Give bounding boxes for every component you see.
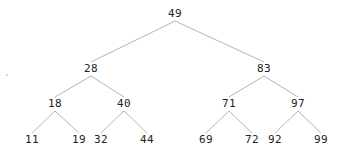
tree-edge: [229, 76, 264, 97]
tree-edge: [275, 111, 298, 133]
tree-leaf: 92: [268, 134, 282, 146]
tree-edge: [175, 21, 264, 62]
tree-edge: [264, 76, 298, 97]
tree-leaf: 99: [314, 134, 328, 146]
tree-leaf: 44: [140, 134, 154, 146]
tree-edge: [91, 21, 175, 62]
tree-edge: [91, 76, 124, 97]
tree-edge: [206, 111, 229, 133]
tree-edges: [0, 0, 344, 162]
tree-node: 71: [222, 98, 236, 110]
tree-edge: [32, 111, 55, 133]
tree-leaf: 72: [245, 134, 259, 146]
tree-node: 83: [257, 63, 271, 75]
tree-leaf: 32: [94, 134, 108, 146]
tree-leaf: 11: [25, 134, 39, 146]
tree-edge: [55, 76, 91, 97]
tree-leaf: 69: [199, 134, 213, 146]
tree-edge: [298, 111, 321, 133]
tree-edge: [101, 111, 124, 133]
tree-edge: [55, 111, 79, 133]
tree-edge: [124, 111, 147, 133]
tree-node: 40: [117, 98, 131, 110]
tree-leaf: 19: [72, 134, 86, 146]
tree-edge: [229, 111, 252, 133]
stray-dot: [6, 74, 8, 76]
tree-node-root: 49: [168, 8, 182, 20]
tree-node: 28: [84, 63, 98, 75]
tree-diagram: 49 28 83 18 40 71 97 11 19 32 44 69 72 9…: [0, 0, 344, 162]
tree-node: 97: [291, 98, 305, 110]
tree-node: 18: [48, 98, 62, 110]
